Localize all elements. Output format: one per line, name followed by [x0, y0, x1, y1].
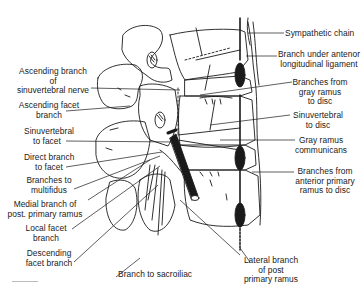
label-ascending-branch-sinuvertebral: Ascending branch of sinuvertebral nerve	[12, 67, 94, 96]
upper-facet-process	[122, 25, 172, 82]
label-branches-anterior-primary-ramus-to-disc: Branches from anterior primary ramus to …	[294, 167, 356, 196]
label-ascending-facet-branch: Ascending facet branch	[16, 101, 82, 120]
label-sympathetic-chain: Sympathetic chain	[285, 29, 354, 39]
label-branch-under-anterior-longitudinal-ligament: Branch under antenor longitudinal ligame…	[277, 50, 361, 69]
middle-lamina	[97, 64, 142, 109]
label-direct-branch-to-facet: Direct branch to facet	[24, 153, 74, 172]
label-sinuvertebral-to-disc: Sinuvertebral to disc	[292, 111, 344, 130]
label-medial-branch-post-primary-ramus: Medial branch of post. primary ramus	[4, 200, 86, 219]
label-local-facet-branch: Local facet branch	[24, 224, 68, 243]
lower-lamina	[96, 121, 150, 178]
nerve-branches	[145, 28, 240, 235]
scan-artifact-line	[12, 281, 38, 282]
label-gray-ramus-communicans: Gray ramus communicans	[293, 136, 349, 155]
label-sinuvertebral-to-facet: Sinuvertebral to facet	[24, 127, 70, 146]
middle-vertebral-body	[179, 96, 256, 147]
label-branches-gray-ramus-to-disc: Branches from gray ramus to disc	[292, 78, 348, 107]
label-branches-to-multifidus: Branches to multifidus	[26, 176, 72, 195]
sympathetic-chain-trunk	[235, 18, 250, 250]
label-branch-to-sacroiliac: Branch to sacroiliac	[118, 270, 192, 280]
label-descending-facet-branch: Descending facet branch	[24, 249, 74, 268]
label-lateral-branch-post-primary-ramus: Lateral branch of post primary ramus	[241, 256, 301, 285]
